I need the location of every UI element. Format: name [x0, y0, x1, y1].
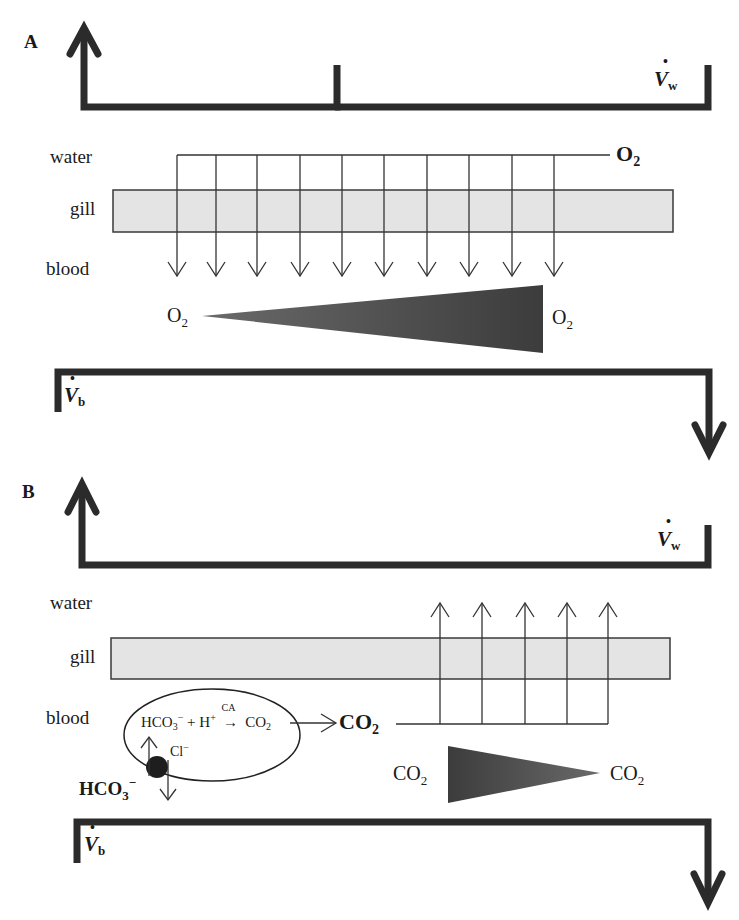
o2-gradient-right-label: O2 — [552, 307, 573, 331]
layer-label-blood: blood — [46, 259, 89, 278]
flow-rate-dot-icon: • — [663, 54, 668, 70]
co2-gradient-left-label: CO2 — [393, 763, 427, 787]
o2-gradient-wedge — [202, 285, 543, 353]
panel-label-a: A — [24, 32, 38, 51]
layer-label-gill: gill — [70, 199, 95, 218]
carbonic-anhydrase-reaction: HCO3− + H+ CA→ CO2 — [141, 713, 271, 732]
flow-rate-dot-icon: • — [90, 820, 95, 836]
bicarbonate-label: HCO3− — [79, 776, 136, 802]
flow-rate-dot-icon: • — [666, 514, 671, 530]
gill-slab-b — [111, 638, 670, 679]
panel-a — [58, 28, 723, 453]
co2-outflow-arrow-icon — [290, 714, 336, 732]
panel-b — [68, 484, 722, 903]
layer-label-water: water — [50, 147, 92, 166]
water-flow-label-a: Vw — [654, 69, 677, 92]
water-flow-path-a — [84, 28, 337, 107]
flow-rate-dot-icon: • — [70, 371, 75, 387]
co2-gradient-right-label: CO2 — [610, 763, 644, 787]
o2-source-label: O2 — [616, 143, 640, 169]
layer-label-blood: blood — [46, 708, 89, 727]
layer-label-water: water — [50, 593, 92, 612]
layer-label-gill: gill — [70, 647, 95, 666]
water-flow-label-b: Vw — [657, 529, 680, 552]
gill-slab-a — [113, 190, 673, 232]
blood-flow-label-a: Vb — [64, 385, 85, 408]
blood-flow-path-b — [77, 822, 708, 903]
o2-gradient-left-label: O2 — [167, 305, 188, 329]
water-flow-path-a-right — [335, 65, 708, 107]
chloride-ion-label: Cl− — [170, 743, 189, 759]
co2-product-label: CO2 — [339, 711, 379, 737]
blood-flow-path-a — [58, 372, 709, 452]
enzyme-label: CA — [222, 703, 236, 713]
co2-gradient-wedge — [448, 746, 600, 803]
panel-label-b: B — [22, 482, 35, 501]
blood-flow-label-b: Vb — [84, 834, 105, 857]
water-flow-path-b — [82, 484, 708, 565]
